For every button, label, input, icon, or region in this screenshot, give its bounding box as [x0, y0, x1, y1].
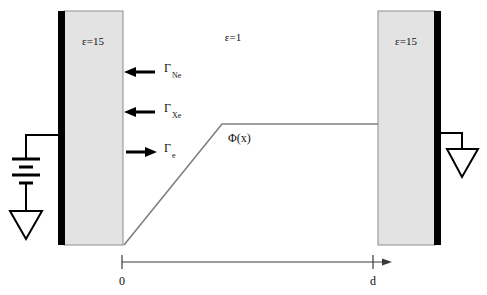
x-axis-end-label: d [370, 274, 376, 288]
x-axis-arrowhead [382, 259, 392, 266]
flux-e-subscript: e [172, 151, 176, 160]
figure-canvas: ε=15 ε=1 ε=15 Γ Ne Γ Xe Γ e Φ(x) [0, 0, 487, 295]
x-axis-origin-label: 0 [119, 274, 125, 288]
flux-e-symbol: Γ [164, 141, 171, 155]
flux-arrow-ne: Γ Ne [124, 61, 182, 80]
left-circuit [10, 135, 58, 239]
left-electrode-bar [58, 11, 65, 245]
flux-ne-subscript: Ne [172, 71, 182, 80]
gap-permittivity-label: ε=1 [225, 31, 241, 43]
battery-symbol [12, 159, 40, 183]
left-slab-permittivity-label: ε=15 [82, 35, 104, 47]
right-circuit [441, 133, 478, 177]
right-ground-lead [441, 133, 462, 149]
left-ground-icon [10, 211, 42, 239]
capacitor-diagram: ε=15 ε=1 ε=15 Γ Ne Γ Xe Γ e Φ(x) [0, 0, 487, 295]
flux-arrow-e: Γ e [126, 141, 176, 160]
flux-xe-subscript: Xe [172, 111, 182, 120]
flux-e-arrowhead [145, 147, 157, 157]
x-axis: 0 d [119, 255, 392, 288]
potential-label: Φ(x) [228, 131, 251, 145]
right-slab-permittivity-label: ε=15 [395, 35, 417, 47]
flux-ne-arrowhead [124, 67, 136, 77]
left-battery-top-lead [26, 135, 58, 157]
right-ground-icon [447, 149, 478, 177]
right-electrode-bar [434, 11, 441, 245]
potential-profile-curve [124, 124, 378, 245]
flux-xe-arrowhead [124, 107, 136, 117]
flux-arrow-xe: Γ Xe [124, 101, 182, 120]
flux-xe-symbol: Γ [164, 101, 171, 115]
flux-ne-symbol: Γ [164, 61, 171, 75]
